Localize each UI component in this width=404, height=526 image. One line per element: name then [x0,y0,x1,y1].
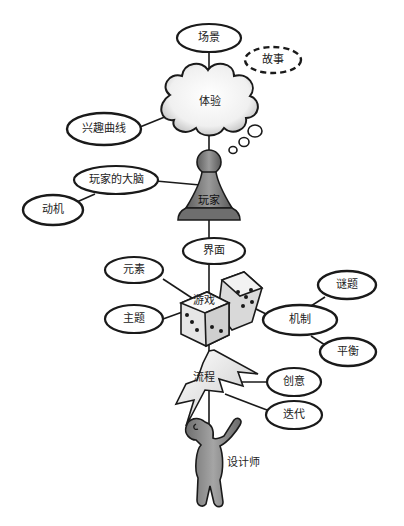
node-creativity-label: 创意 [283,374,305,388]
node-story: 故事 [245,47,301,73]
node-player-brain: 玩家的大脑 [74,166,158,194]
node-game-dice: 游戏 [181,272,262,346]
node-process-label: 流程 [193,370,215,384]
node-motivation: 动机 [23,195,83,225]
node-theme-label: 主题 [123,312,145,325]
node-scene-label: 场景 [198,30,220,44]
node-experience-cloud: 体验 [161,64,258,136]
node-process-bolt: 流程 [176,350,258,426]
node-interest-curve: 兴趣曲线 [67,113,141,145]
node-interest-curve-label: 兴趣曲线 [82,121,126,135]
node-scene: 场景 [177,24,241,52]
node-experience-label: 体验 [199,94,221,108]
node-iteration-label: 迭代 [283,408,305,421]
node-interface-label: 界面 [203,244,225,257]
node-player-label: 玩家 [198,193,220,207]
node-puzzles-label: 谜题 [336,278,358,291]
game-design-lens-diagram: 场景 故事 体验 兴趣曲线 玩家 玩家的大脑 动机 界面 [0,0,404,526]
node-creativity: 创意 [267,368,321,396]
node-interface: 界面 [183,238,245,264]
node-designer-label: 设计师 [227,456,260,469]
node-elements: 元素 [105,257,163,283]
node-player-brain-label: 玩家的大脑 [89,172,144,186]
node-elements-label: 元素 [123,263,145,276]
node-motivation-label: 动机 [42,202,64,216]
node-mechanics: 机制 [263,305,337,335]
node-game-label: 游戏 [193,294,215,307]
node-theme: 主题 [105,305,163,333]
node-iteration: 迭代 [266,401,322,429]
node-balance: 平衡 [320,338,376,366]
node-puzzles: 谜题 [318,271,376,299]
node-player-pawn: 玩家 [178,150,240,220]
node-story-label: 故事 [262,52,284,66]
node-designer-figure: 设计师 [186,418,260,506]
node-balance-label: 平衡 [337,345,359,358]
node-mechanics-label: 机制 [289,312,311,326]
